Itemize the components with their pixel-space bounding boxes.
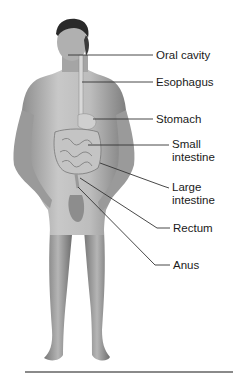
label-large-intestine-line1: Large (172, 181, 215, 194)
label-small-intestine-line2: intestine (172, 151, 215, 164)
label-small-intestine-line1: Small (172, 138, 215, 151)
label-anus: Anus (173, 259, 199, 272)
label-rectum: Rectum (173, 222, 213, 235)
label-small-intestine: Small intestine (172, 138, 215, 164)
label-large-intestine-line2: intestine (172, 194, 215, 207)
label-large-intestine: Large intestine (172, 181, 215, 207)
label-oral-cavity: Oral cavity (156, 49, 210, 62)
digestive-system-figure: Oral cavity Esophagus Stomach Small inte… (0, 0, 233, 373)
head (56, 19, 89, 72)
legs (44, 230, 110, 361)
label-stomach: Stomach (156, 113, 201, 126)
label-esophagus: Esophagus (156, 76, 214, 89)
